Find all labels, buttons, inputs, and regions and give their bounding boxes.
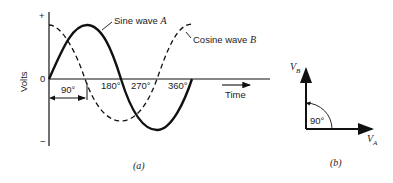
sine-wave-a: [49, 25, 192, 130]
y-plus: +: [39, 10, 45, 21]
y-minus: −: [40, 136, 46, 147]
offset-label: 90°: [61, 84, 76, 95]
caption-a: (a): [133, 160, 145, 172]
time-label: Time: [225, 89, 246, 100]
sine-label: Sine wave A: [114, 15, 167, 26]
cosine-wave-b: [49, 24, 192, 121]
phase-diagram: + − 0 Volts 90° 180° 270° 360° Time Sine…: [0, 0, 393, 183]
tick-180: 180°: [101, 80, 121, 91]
caption-b: (b): [330, 157, 342, 169]
tick-360: 360°: [168, 80, 188, 91]
cosine-label: Cosine wave B: [193, 34, 256, 45]
origin-label: 0: [40, 73, 45, 84]
va-label: VA: [367, 133, 378, 147]
tick-270: 270°: [131, 80, 151, 91]
waveform-axes: [45, 12, 270, 146]
phasor-angle: 90°: [310, 115, 325, 126]
vb-label: VB: [290, 61, 301, 75]
y-axis-label: Volts: [18, 71, 29, 92]
